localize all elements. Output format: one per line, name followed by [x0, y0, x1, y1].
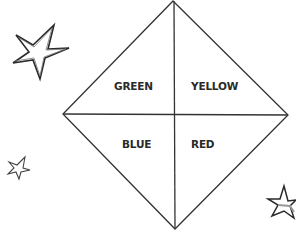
- star-icon: [8, 157, 30, 179]
- diagram-canvas: GREEN YELLOW BLUE RED: [0, 0, 296, 231]
- quadrant-label-top-left: GREEN: [114, 81, 153, 92]
- diamond-diagram: [0, 0, 296, 231]
- quadrant-label-bottom-left: BLUE: [122, 139, 151, 150]
- star-icon: [268, 186, 296, 218]
- quadrant-label-top-right: YELLOW: [191, 81, 238, 92]
- star-icon: [13, 25, 69, 79]
- horizontal-divider: [63, 114, 288, 115]
- quadrant-label-bottom-right: RED: [191, 139, 214, 150]
